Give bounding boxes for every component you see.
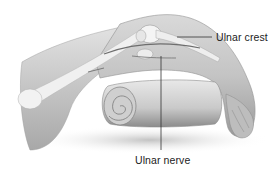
ulnar-crest-label: Ulnar crest <box>216 32 268 43</box>
arm-illustration <box>0 0 280 169</box>
anatomy-figure: Ulnar crest Ulnar nerve <box>0 0 280 169</box>
humerus-head <box>18 89 42 109</box>
ulnar-nerve-label: Ulnar nerve <box>135 155 190 166</box>
